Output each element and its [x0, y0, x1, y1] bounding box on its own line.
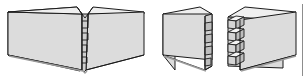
- joint-diagram-svg: [0, 0, 307, 80]
- exploded-pin-fingers: [228, 16, 244, 65]
- exploded-pin-finger-2-front: [228, 32, 236, 41]
- panel-assembled: [8, 7, 144, 73]
- exploded-pin-finger-3-front: [228, 44, 236, 53]
- exploded-socket-notch-1: [205, 22, 212, 31]
- exploded-socket-notch-4: [205, 58, 211, 66]
- exploded-socket-notch-3: [205, 46, 212, 55]
- panel-exploded: [163, 7, 296, 71]
- exploded-pin-finger-4-front: [228, 56, 236, 65]
- assembled-left-board-front: [8, 12, 82, 70]
- exploded-pin-finger-1-front: [228, 20, 236, 29]
- exploded-socket-notch-2: [205, 34, 212, 43]
- exploded-pin-board-body: [240, 12, 296, 70]
- assembled-right-board-front: [86, 12, 144, 70]
- joint-diagram-figure: Box joint (finger joint) corner assembly…: [0, 0, 307, 80]
